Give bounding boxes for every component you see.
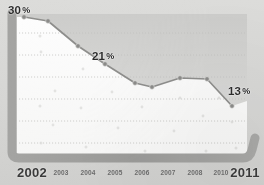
- x-tick-2005: 2005: [108, 169, 123, 176]
- x-axis-labels: 2002 2003 2004 2005 2006 2007 2008 2010 …: [0, 0, 264, 185]
- x-tick-2011: 2011: [230, 165, 259, 180]
- x-tick-2010: 2010: [214, 169, 229, 176]
- x-tick-2003: 2003: [54, 169, 69, 176]
- x-tick-2007: 2007: [161, 169, 176, 176]
- chart-container: 30% 21% 13% 2002 2003 2004 2005 2006 200…: [0, 0, 264, 185]
- x-tick-2008: 2008: [188, 169, 203, 176]
- x-tick-2004: 2004: [81, 169, 96, 176]
- x-tick-2002: 2002: [17, 165, 47, 180]
- x-tick-2006: 2006: [135, 169, 150, 176]
